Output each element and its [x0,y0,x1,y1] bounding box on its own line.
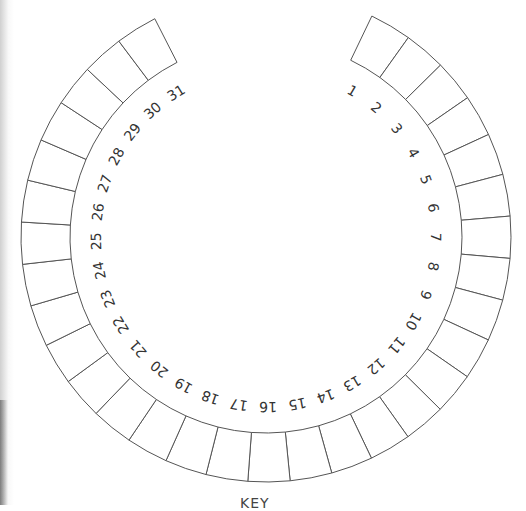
day-label-21: 21 [126,337,150,361]
day-label-4: 4 [405,145,423,161]
day-label-14: 14 [314,386,336,407]
day-label-13: 13 [340,372,363,395]
day-label-8: 8 [425,261,442,273]
day-label-11: 11 [385,334,409,358]
day-labels: 1234567891011121314151617181920212223242… [88,81,444,415]
day-label-20: 20 [147,357,171,381]
day-label-1: 1 [345,81,361,99]
day-label-27: 27 [94,172,115,194]
day-label-25: 25 [88,232,104,250]
day-label-24: 24 [90,260,109,281]
day-label-3: 3 [388,120,406,137]
day-cell-7 [461,216,511,258]
day-label-2: 2 [368,99,385,117]
day-label-19: 19 [172,374,195,397]
day-label-15: 15 [287,395,307,414]
day-cell-25 [21,222,71,264]
day-label-6: 6 [425,202,442,214]
day-label-23: 23 [97,288,118,310]
day-label-7: 7 [428,233,444,242]
day-label-18: 18 [199,387,221,408]
day-label-28: 28 [105,145,128,168]
day-label-9: 9 [417,288,435,302]
day-label-5: 5 [417,173,435,187]
day-label-26: 26 [89,202,107,222]
day-label-29: 29 [121,120,145,144]
day-label-31: 31 [164,81,188,104]
bottom-caption: KEY [240,495,270,511]
day-cell-16 [248,432,290,482]
day-label-16: 16 [259,399,277,415]
day-label-17: 17 [229,395,249,414]
day-label-30: 30 [141,99,165,123]
day-label-10: 10 [402,310,425,333]
day-label-22: 22 [109,313,132,337]
day-label-12: 12 [364,355,388,379]
